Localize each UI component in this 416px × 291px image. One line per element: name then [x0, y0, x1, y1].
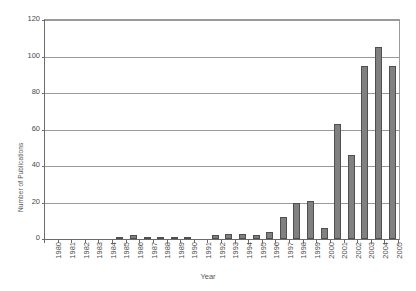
bar — [293, 203, 300, 240]
x-tick-label: 2000 — [327, 242, 336, 272]
x-tick-label: 1996 — [272, 242, 281, 272]
bar — [375, 47, 382, 239]
x-tick-label: 2005 — [395, 242, 404, 272]
bars-series — [45, 20, 399, 239]
x-axis-title: Year — [0, 272, 416, 281]
x-tick-label: 1991 — [204, 242, 213, 272]
plot-area — [44, 19, 400, 240]
publications-bar-chart: Number of Publications 020406080100120 1… — [0, 0, 416, 291]
bar — [321, 228, 328, 239]
x-tick-label: 1982 — [82, 242, 91, 272]
x-tick-label: 2004 — [381, 242, 390, 272]
x-tick-label: 1995 — [259, 242, 268, 272]
x-tick-label: 1987 — [150, 242, 159, 272]
bar — [348, 155, 355, 239]
x-tick-label: 1992 — [218, 242, 227, 272]
bar — [266, 232, 273, 239]
y-axis-tick-labels: 020406080100120 — [18, 0, 40, 291]
x-tick-label: 1989 — [177, 242, 186, 272]
y-tick-label: 0 — [18, 234, 40, 242]
y-tick-label: 80 — [18, 88, 40, 96]
bar — [307, 201, 314, 239]
y-tick-label: 40 — [18, 161, 40, 169]
x-tick-label: 1986 — [136, 242, 145, 272]
x-tick-label: 2003 — [367, 242, 376, 272]
bar — [334, 124, 341, 239]
x-tick-label: 1990 — [190, 242, 199, 272]
y-tick-label: 100 — [18, 52, 40, 60]
y-tick-label: 120 — [18, 15, 40, 23]
x-tick-label: 1984 — [109, 242, 118, 272]
bar — [280, 217, 287, 239]
x-tick-label: 1999 — [313, 242, 322, 272]
x-tick-label: 2001 — [340, 242, 349, 272]
bar — [361, 66, 368, 239]
x-tick-label: 1994 — [245, 242, 254, 272]
bar — [389, 66, 396, 239]
x-tick-label: 1981 — [68, 242, 77, 272]
x-axis-tick-labels: 1980198119821983198419851986198719881989… — [44, 244, 400, 274]
x-tick-label: 1985 — [122, 242, 131, 272]
x-tick-label: 2002 — [354, 242, 363, 272]
x-tick-label: 1998 — [299, 242, 308, 272]
y-tick-label: 60 — [18, 125, 40, 133]
x-tick-label: 1988 — [163, 242, 172, 272]
x-tick-label: 1997 — [286, 242, 295, 272]
x-tick-mark — [44, 239, 45, 243]
x-tick-label: 1993 — [231, 242, 240, 272]
y-tick-label: 20 — [18, 198, 40, 206]
x-tick-label: 1980 — [54, 242, 63, 272]
x-tick-label: 1983 — [95, 242, 104, 272]
